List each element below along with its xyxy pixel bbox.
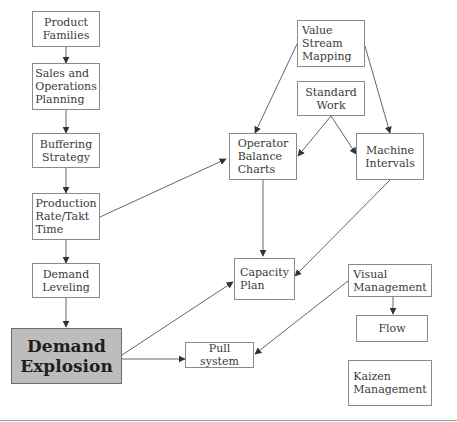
node-label: Visual Management [353,268,426,294]
node-operator-balance-charts: Operator Balance Charts [229,133,297,180]
edge-standard-machine [331,116,356,154]
node-demand-explosion: Demand Explosion [11,328,122,384]
node-label: Pull system [190,342,249,368]
node-standard-work: Standard Work [297,81,365,116]
node-kaizen-management: Kaizen Management [348,360,432,406]
edge-vsm-machine [365,46,390,133]
node-label: Buffering Strategy [40,138,92,164]
node-label: Standard Work [305,86,357,112]
node-pull-system: Pull system [185,342,254,368]
node-label: Demand Explosion [20,336,113,376]
node-label: Operator Balance Charts [238,137,289,176]
node-sales-ops-planning: Sales and Operations Planning [32,63,100,110]
node-machine-intervals: Machine Intervals [356,133,424,180]
bottom-rule [0,420,457,421]
node-capacity-plan: Capacity Plan [234,258,295,300]
node-label: Demand Leveling [42,268,90,294]
node-label: Kaizen Management [353,370,426,396]
lean-planning-diagram: Product Families Sales and Operations Pl… [0,0,457,422]
edge-production-operator [100,159,226,217]
node-product-families: Product Families [32,11,100,47]
edge-machine-capacity [295,180,390,276]
edge-vsm-operator [255,44,297,133]
node-label: Product Families [43,16,90,42]
node-buffering-strategy: Buffering Strategy [32,133,100,168]
node-label: Value Stream Mapping [302,24,360,63]
node-visual-management: Visual Management [348,264,432,297]
node-value-stream-mapping: Value Stream Mapping [297,20,365,67]
node-label: Capacity Plan [240,266,289,292]
node-label: Sales and Operations Planning [35,67,97,106]
edge-standard-operator [298,116,331,156]
node-flow: Flow [356,315,428,342]
node-label: Flow [378,322,405,335]
node-production-rate: Production Rate/Takt Time [32,193,100,240]
node-label: Machine Intervals [365,144,415,170]
node-label: Production Rate/Takt Time [35,197,96,236]
node-demand-leveling: Demand Leveling [32,263,100,298]
